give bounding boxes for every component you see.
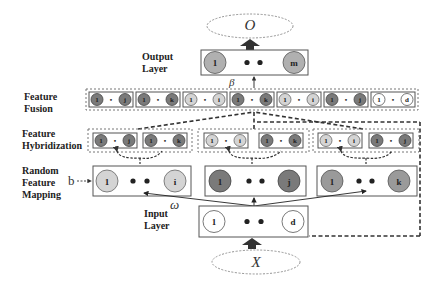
svg-text:1: 1: [377, 96, 381, 104]
svg-text:1: 1: [324, 137, 328, 145]
svg-text:k: k: [293, 137, 297, 145]
svg-text:k: k: [177, 137, 181, 145]
hybridization-label-2: Hybridization: [22, 140, 82, 151]
output-node-first: 1: [213, 58, 218, 68]
svg-text:i: i: [312, 96, 314, 104]
svg-text:1: 1: [283, 96, 287, 104]
fusion-pair: 1 • i: [183, 92, 227, 107]
input-node-first: 1: [212, 217, 217, 227]
svg-text:1: 1: [210, 137, 214, 145]
svg-text:j: j: [287, 177, 291, 187]
svg-text:1: 1: [142, 96, 146, 104]
svg-text:1: 1: [218, 177, 223, 187]
svg-text:k: k: [264, 96, 268, 104]
svg-text:j: j: [403, 137, 406, 145]
mapping-to-hybrid-connectors: [117, 151, 392, 164]
input-symbol: X: [250, 254, 261, 270]
svg-text:k: k: [396, 177, 401, 187]
fusion-label-1: Feature: [24, 91, 58, 102]
svg-text:k: k: [170, 96, 174, 104]
svg-text:j: j: [127, 137, 130, 145]
input-node-last: d: [290, 217, 295, 227]
input-arrow-icon: [242, 238, 262, 249]
svg-text:d: d: [405, 96, 409, 104]
hybridization-group-3: 1 • i 1 • j: [313, 129, 419, 152]
fusion-pair: 1 • i: [277, 92, 321, 107]
svg-text:1: 1: [330, 96, 334, 104]
output-node-last: m: [290, 58, 298, 68]
mapping-label-3: Mapping: [22, 189, 61, 200]
svg-text:1: 1: [375, 137, 379, 145]
mapping-group-1: 1 i: [93, 166, 191, 196]
mapping-label-1: Random: [22, 165, 59, 176]
svg-text:1: 1: [105, 177, 110, 187]
svg-text:1: 1: [99, 137, 103, 145]
fusion-pair: 1 • j: [89, 92, 133, 107]
input-layer-label-2: Layer: [144, 220, 170, 231]
output-symbol: O: [245, 17, 256, 33]
svg-text:1: 1: [95, 96, 99, 104]
fusion-pair: 1 • j: [324, 92, 368, 107]
mapping-label-2: Feature: [22, 177, 56, 188]
fusion-pair: 1 • d: [371, 92, 415, 107]
feature-fusion-layer: 1 • j 1 • k 1 • i 1 • k 1 •: [86, 89, 418, 110]
hybridization-group-1: 1 • j 1 • k: [88, 129, 192, 152]
output-arrow-icon: [240, 39, 260, 50]
svg-text:j: j: [123, 96, 126, 104]
fusion-label-2: Fusion: [24, 103, 53, 114]
svg-text:j: j: [358, 96, 361, 104]
output-layer-label-1: Output: [142, 51, 174, 62]
input-ellipse: X: [212, 250, 300, 274]
svg-text:i: i: [353, 137, 355, 145]
input-layer-label-1: Input: [144, 208, 169, 219]
output-ellipse: O: [207, 14, 293, 38]
hybridization-group-2: 1 • i 1 • k: [198, 129, 309, 152]
input-layer: 1 d: [199, 206, 308, 237]
svg-text:1: 1: [189, 96, 193, 104]
fusion-pair: 1 • k: [136, 92, 180, 107]
mapping-group-3: 1 k: [317, 166, 417, 196]
elm-architecture-diagram: O Output Layer 1 m β Feature Fusion 1 • …: [0, 0, 442, 281]
hybridization-label-1: Feature: [22, 128, 56, 139]
output-layer-label-2: Layer: [142, 63, 168, 74]
bias-label: b: [68, 173, 75, 188]
fusion-pair: 1 • k: [230, 92, 274, 107]
svg-text:1: 1: [330, 177, 335, 187]
mapping-group-2: 1 j: [205, 166, 306, 196]
svg-text:i: i: [239, 137, 241, 145]
svg-text:1: 1: [265, 137, 269, 145]
output-layer: 1 m: [201, 50, 308, 75]
omega-weight-label: ω: [170, 197, 179, 212]
svg-text:1: 1: [236, 96, 240, 104]
svg-text:i: i: [218, 96, 220, 104]
svg-text:1: 1: [149, 137, 153, 145]
beta-weight-label: β: [228, 76, 235, 88]
